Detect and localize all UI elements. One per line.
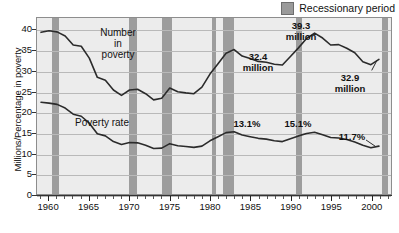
plot-area: Number in poverty Poverty rate 32.4 mill… <box>36 17 392 195</box>
annot-39-3-million: 39.3 million <box>278 21 324 42</box>
x-tick-minor <box>380 196 381 199</box>
x-tick-minor <box>218 196 219 199</box>
x-tick-label: 1980 <box>190 202 230 212</box>
x-tick-minor <box>283 196 284 199</box>
annot-32-9-million: 32.9 million <box>327 73 373 94</box>
x-tick-minor <box>356 196 357 199</box>
x-tick-minor <box>161 196 162 199</box>
x-tick-minor <box>81 196 82 199</box>
x-tick-minor <box>275 196 276 199</box>
y-tick-label: 5 <box>2 169 32 179</box>
y-tick-label: 15 <box>2 128 32 138</box>
x-tick-minor <box>323 196 324 199</box>
y-tick-mark <box>32 133 36 134</box>
y-tick-mark <box>32 154 36 155</box>
x-tick-minor <box>56 196 57 199</box>
y-tick-label: 0 <box>2 190 32 200</box>
x-tick-minor <box>105 196 106 199</box>
x-tick-minor <box>153 196 154 199</box>
x-tick-label: 1995 <box>311 202 351 212</box>
y-tick-label: 10 <box>2 149 32 159</box>
x-tick-minor <box>113 196 114 199</box>
x-tick-label: 1965 <box>69 202 109 212</box>
y-tick-label: 35 <box>2 45 32 55</box>
x-tick-minor <box>299 196 300 199</box>
y-tick-label: 40 <box>2 24 32 34</box>
x-tick-minor <box>64 196 65 199</box>
x-tick-minor <box>186 196 187 199</box>
y-tick-label: 20 <box>2 107 32 117</box>
x-tick-minor <box>72 196 73 199</box>
x-tick-minor <box>202 196 203 199</box>
recession-swatch-icon <box>281 2 294 15</box>
y-tick-label: 30 <box>2 66 32 76</box>
y-tick-mark <box>32 174 36 175</box>
x-tick-minor <box>267 196 268 199</box>
annot-13-1-percent: 13.1% <box>229 119 265 130</box>
x-tick-label: 1990 <box>271 202 311 212</box>
x-tick-minor <box>178 196 179 199</box>
x-tick-minor <box>364 196 365 199</box>
annot-32-4-million: 32.4 million <box>235 52 281 73</box>
y-tick-mark <box>32 92 36 93</box>
x-tick-label: 1975 <box>150 202 190 212</box>
x-tick-minor <box>40 196 41 199</box>
y-tick-label: 25 <box>2 87 32 97</box>
legend-label: Recessionary period <box>299 3 395 14</box>
x-tick-minor <box>348 196 349 199</box>
x-tick-minor <box>307 196 308 199</box>
x-tick-minor <box>194 196 195 199</box>
x-tick-minor <box>259 196 260 199</box>
x-tick-label: 1985 <box>230 202 270 212</box>
x-tick-minor <box>388 196 389 199</box>
x-tick-label: 2000 <box>352 202 392 212</box>
y-tick-mark <box>32 50 36 51</box>
x-tick-minor <box>97 196 98 199</box>
x-tick-label: 1960 <box>28 202 68 212</box>
poverty-chart-figure: Recessionary period Millions/Percentage … <box>0 0 399 233</box>
x-tick-minor <box>315 196 316 199</box>
x-tick-minor <box>242 196 243 199</box>
annot-11-7-percent: 11.7% <box>334 132 370 143</box>
x-tick-label: 1970 <box>109 202 149 212</box>
legend: Recessionary period <box>281 2 395 15</box>
annot-15-1-percent: 15.1% <box>280 119 316 130</box>
x-tick-minor <box>137 196 138 199</box>
y-tick-mark <box>32 29 36 30</box>
x-tick-minor <box>339 196 340 199</box>
x-tick-minor <box>226 196 227 199</box>
y-tick-mark <box>32 112 36 113</box>
y-tick-mark <box>32 71 36 72</box>
series-label-number-in-poverty: Number in poverty <box>83 27 153 60</box>
x-tick-minor <box>234 196 235 199</box>
x-tick-minor <box>121 196 122 199</box>
series-label-poverty-rate: Poverty rate <box>62 117 142 128</box>
x-tick-minor <box>145 196 146 199</box>
